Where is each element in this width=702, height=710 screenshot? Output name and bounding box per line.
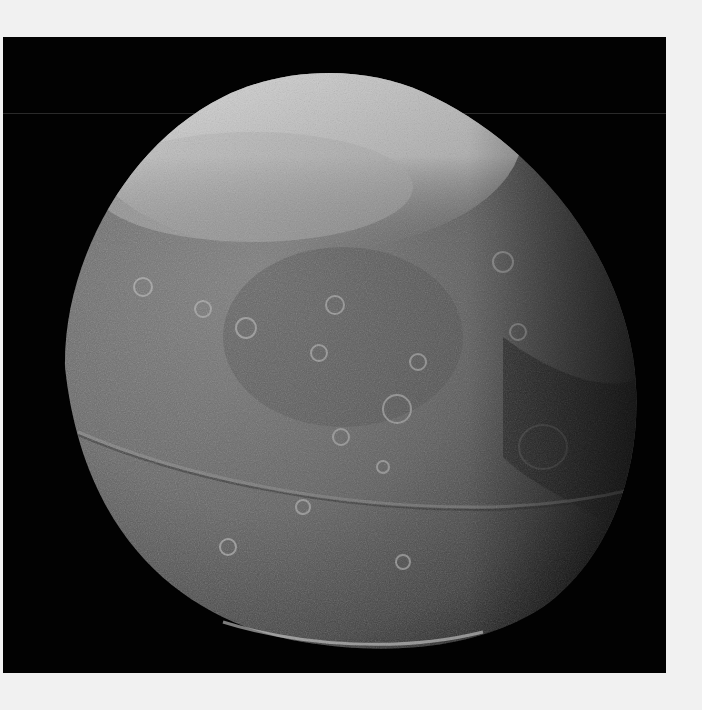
moon-image bbox=[3, 37, 666, 673]
photo-panel bbox=[3, 37, 666, 673]
